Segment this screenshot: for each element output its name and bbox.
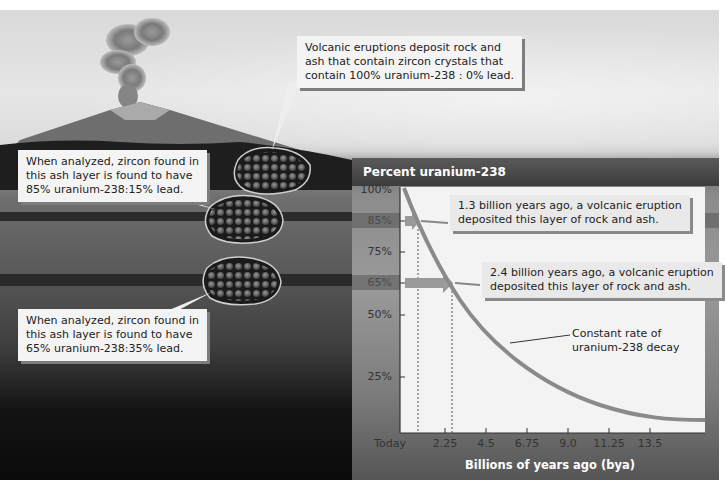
x-tick-13-5: 13.5: [630, 437, 670, 450]
y-tick-75: 75%: [348, 245, 392, 258]
annotation-1-3-bya-text: 1.3 billion years ago, a volcanic erupti…: [458, 199, 682, 227]
x-tick-2-25: 2.25: [425, 437, 465, 450]
x-tick-today: Today: [370, 437, 410, 450]
annotation-2-4-bya-text: 2.4 billion years ago, a volcanic erupti…: [490, 266, 714, 294]
layer-65-callout-text: When analyzed, zircon found inthis ash l…: [26, 314, 199, 356]
y-tick-65: 65%: [348, 276, 392, 289]
x-tick-9-0: 9.0: [548, 437, 588, 450]
zircon-cluster-middle-icon: [205, 195, 283, 243]
x-tick-6-75: 6.75: [507, 437, 547, 450]
y-tick-50: 50%: [348, 308, 392, 321]
zircon-cluster-top-icon: [234, 148, 310, 195]
eruption-callout-text: Volcanic eruptions deposit rock andash t…: [305, 41, 514, 83]
y-tick-85: 85%: [348, 214, 392, 227]
eruption-callout: Volcanic eruptions deposit rock andash t…: [297, 36, 522, 88]
x-tick-11-25: 11.25: [589, 437, 629, 450]
zircon-cluster-bottom-icon: [203, 257, 281, 305]
x-tick-4-5: 4.5: [466, 437, 506, 450]
chart-header: Percent uranium-238: [352, 158, 719, 186]
annotation-1-3-bya: 1.3 billion years ago, a volcanic erupti…: [450, 195, 690, 231]
layer-85-callout-text: When analyzed, zircon found inthis ash l…: [26, 155, 199, 197]
annotation-2-4-bya: 2.4 billion years ago, a volcanic erupti…: [482, 262, 722, 298]
chart-title: Percent uranium-238: [363, 165, 506, 179]
layer-65-callout: When analyzed, zircon found inthis ash l…: [18, 309, 207, 361]
curve-label: Constant rate ofuranium-238 decay: [572, 327, 679, 355]
x-axis-label: Billions of years ago (bya): [400, 458, 700, 472]
curve-label-text: Constant rate ofuranium-238 decay: [572, 327, 679, 355]
ash-plume-icon: [100, 18, 170, 108]
y-tick-100: 100%: [348, 183, 392, 196]
layer-85-callout: When analyzed, zircon found inthis ash l…: [18, 150, 207, 202]
y-tick-25: 25%: [348, 370, 392, 383]
